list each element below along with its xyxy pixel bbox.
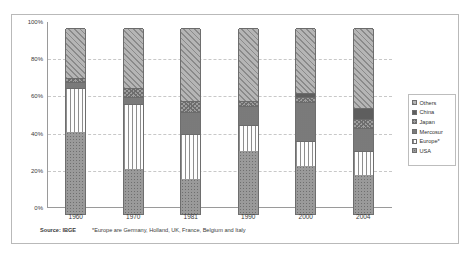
chart-frame: 0%20%40%60%80%100% 196019701981199020002… [11,14,459,244]
x-axis-tick-label-1970: 1970 [105,213,163,221]
y-axis: 0%20%40%60%80%100% [12,22,45,208]
legend-label: USA [420,148,432,154]
bar-segment-mercosur[interactable] [296,102,315,141]
gridline [48,59,392,60]
bar-segment-europe[interactable] [239,125,258,151]
bar-segment-japan[interactable] [296,97,315,103]
y-axis-tick-label: 80% [31,56,43,62]
bar-segment-others[interactable] [239,28,258,101]
legend-item-japan[interactable]: Japan [412,117,453,127]
bar-group-1990 [238,29,259,215]
legend-label: Japan [420,119,435,125]
bar-segment-others[interactable] [354,28,373,108]
x-axis-tick-label-2004: 2004 [335,213,393,221]
bar-segment-japan[interactable] [124,88,143,97]
bar-segment-others[interactable] [181,28,200,101]
bar-segment-usa[interactable] [296,166,315,214]
legend-label: China [420,109,435,115]
bar-segment-others[interactable] [296,28,315,93]
bar-segment-europe[interactable] [354,151,373,175]
y-axis-tick-label: 100% [28,19,43,25]
stacked-bar[interactable] [295,29,316,215]
legend-swatch-icon [412,100,417,105]
x-axis-tick-label-2000: 2000 [277,213,335,221]
bar-group-2000 [295,29,316,215]
bar-segment-usa[interactable] [66,132,85,214]
chart-legend: OthersChinaJapanMercosurEurope*USA [408,94,456,166]
legend-label: Europe* [420,138,440,144]
x-axis: 196019701981199020002004 [47,213,392,227]
gridline [48,96,392,97]
legend-item-china[interactable]: China [412,108,453,118]
legend-item-mercosur[interactable]: Mercosur [412,127,453,137]
bar-segment-japan[interactable] [354,119,373,128]
plot-box [47,22,392,208]
x-axis-tick-label-1960: 1960 [47,213,105,221]
bar-group-2004 [353,29,374,215]
bar-segment-usa[interactable] [181,179,200,214]
legend-swatch-icon [412,129,417,134]
bar-segment-mercosur[interactable] [239,106,258,125]
bar-segment-japan[interactable] [181,101,200,112]
bar-segment-mercosur[interactable] [181,112,200,134]
bar-segment-mercosur[interactable] [354,128,373,150]
bar-segment-china[interactable] [296,93,315,97]
y-axis-tick-label: 20% [31,168,43,174]
x-axis-tick-label-1990: 1990 [220,213,278,221]
stacked-bar[interactable] [180,29,201,215]
bar-segment-europe[interactable] [66,88,85,133]
stacked-bar[interactable] [65,29,86,215]
bar-segment-europe[interactable] [124,104,143,169]
bar-segment-china[interactable] [354,108,373,119]
bar-segment-europe[interactable] [296,141,315,165]
legend-item-others[interactable]: Others [412,98,453,108]
source-label: Source: IBGE [40,227,76,233]
bar-segment-japan[interactable] [239,101,258,107]
stacked-bar[interactable] [123,29,144,215]
bar-group-1970 [123,29,144,215]
bar-segment-usa[interactable] [354,175,373,214]
bar-segment-others[interactable] [124,28,143,88]
gridline [48,171,392,172]
legend-item-europe[interactable]: Europe* [412,136,453,146]
legend-item-usa[interactable]: USA [412,146,453,156]
bar-segment-mercosur[interactable] [124,97,143,104]
bar-segment-others[interactable] [66,28,85,78]
bar-segment-europe[interactable] [181,134,200,179]
legend-swatch-icon [412,139,417,144]
bar-segment-usa[interactable] [124,169,143,214]
y-axis-tick-label: 0% [34,205,43,211]
legend-swatch-icon [412,110,417,115]
legend-swatch-icon [412,148,417,153]
stacked-bar[interactable] [238,29,259,215]
bar-group-1960 [65,29,86,215]
legend-swatch-icon [412,119,417,124]
legend-label: Mercosur [420,129,443,135]
bar-segment-japan[interactable] [66,78,85,82]
bar-segment-mercosur[interactable] [66,82,85,88]
x-axis-tick-label-1981: 1981 [162,213,220,221]
bar-segment-usa[interactable] [239,151,258,214]
legend-label: Others [420,100,437,106]
gridline [48,134,392,135]
bar-group-1981 [180,29,201,215]
stacked-bar[interactable] [353,29,374,215]
chart-footer: Source: IBGE*Europe are Germany, Holland… [40,226,390,238]
y-axis-tick-label: 40% [31,131,43,137]
europe-footnote: *Europe are Germany, Holland, UK, France… [92,227,246,233]
plot-area [47,22,392,215]
y-axis-tick-label: 60% [31,93,43,99]
